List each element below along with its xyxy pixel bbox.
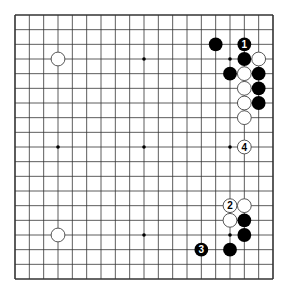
black-stone — [252, 96, 266, 110]
white-stone — [252, 52, 266, 66]
go-board: 1423 — [0, 0, 286, 291]
black-stone — [223, 67, 237, 81]
black-stone — [252, 67, 266, 81]
star-point — [142, 145, 146, 149]
star-point — [56, 145, 60, 149]
move-number-label: 3 — [199, 244, 205, 255]
move-number-label: 1 — [242, 39, 248, 50]
star-point — [228, 233, 232, 237]
star-point — [228, 145, 232, 149]
move-number-label: 4 — [242, 142, 248, 153]
black-stone — [252, 81, 266, 95]
black-stone — [237, 213, 251, 227]
white-stone — [51, 228, 65, 242]
move-number-label: 2 — [227, 200, 233, 211]
star-point — [142, 233, 146, 237]
black-stone: 3 — [194, 243, 208, 257]
white-stone — [237, 67, 251, 81]
white-stone — [51, 52, 65, 66]
black-stone — [223, 243, 237, 257]
white-stone — [237, 81, 251, 95]
white-stone: 2 — [223, 199, 237, 213]
white-stone — [223, 213, 237, 227]
star-point — [228, 57, 232, 61]
black-stone: 1 — [237, 37, 251, 51]
white-stone — [237, 199, 251, 213]
white-stone: 4 — [237, 140, 251, 154]
black-stone — [237, 52, 251, 66]
black-stone — [237, 228, 251, 242]
white-stone — [237, 96, 251, 110]
black-stone — [209, 37, 223, 51]
white-stone — [237, 111, 251, 125]
star-point — [142, 57, 146, 61]
